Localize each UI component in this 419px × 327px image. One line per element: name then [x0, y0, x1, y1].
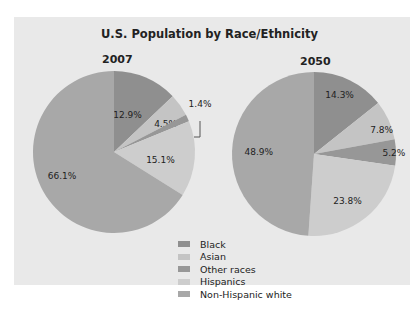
slice-label: 15.1%: [146, 155, 175, 165]
pie-slice-hispanics: [308, 154, 395, 236]
slice-label: 7.8%: [370, 125, 393, 135]
swatch-hispanics: [178, 279, 190, 285]
slice-label: 66.1%: [48, 171, 77, 181]
leader-line-1-4: [194, 121, 200, 137]
slice-label: 23.8%: [333, 196, 362, 206]
legend-item-black: Black: [178, 238, 292, 251]
legend: Black Asian Other races Hispanics Non-Hi…: [178, 238, 292, 301]
slice-label: 1.4%: [189, 99, 212, 109]
legend-item-asian: Asian: [178, 251, 292, 264]
legend-item-hispanics: Hispanics: [178, 276, 292, 289]
pie-2007: 12.9%4.5%1.4%15.1%66.1%: [33, 71, 212, 233]
swatch-non-hispanic-white: [178, 291, 190, 297]
slice-label: 5.2%: [383, 148, 406, 158]
pie-2050: 14.3%7.8%5.2%23.8%48.9%: [232, 72, 406, 236]
slice-label: 14.3%: [325, 90, 354, 100]
swatch-black: [178, 241, 190, 247]
legend-item-other-races: Other races: [178, 263, 292, 276]
slice-label: 48.9%: [245, 147, 274, 157]
swatch-asian: [178, 254, 190, 260]
swatch-other-races: [178, 266, 190, 272]
legend-item-non-hispanic-white: Non-Hispanic white: [178, 288, 292, 301]
slice-label: 12.9%: [113, 110, 142, 120]
